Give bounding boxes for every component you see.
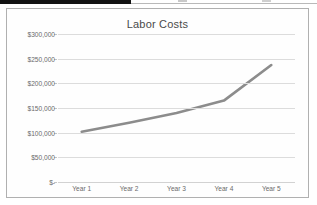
gridline-200000 [58, 83, 295, 84]
y-axis-labels: $-$50,000$100,000$150,000$200,000$250,00… [7, 34, 55, 182]
gridline-250000 [58, 59, 295, 60]
chart-container[interactable]: Labor Costs $-$50,000$100,000$150,000$20… [6, 8, 309, 198]
y-tick-label-250000: $250,000 [9, 55, 55, 62]
y-tick-label-100000: $100,000 [9, 129, 55, 136]
y-tick-label-300000: $300,000 [9, 31, 55, 38]
scan-dark-band-artifact [0, 0, 131, 4]
scan-speck-artifact-right [262, 0, 271, 2]
y-tick-label-50000: $50,000 [9, 154, 55, 161]
x-tick-label-year-5: Year 5 [262, 185, 281, 192]
x-tick-label-year-3: Year 3 [167, 185, 186, 192]
gridline-100000 [58, 133, 295, 134]
y-tick-label-200000: $200,000 [9, 80, 55, 87]
x-axis-labels: Year 1Year 2Year 3Year 4Year 5 [58, 185, 295, 197]
gridline-50000 [58, 157, 295, 158]
gridline-0 [58, 182, 295, 183]
gridline-150000 [58, 108, 295, 109]
x-tick-label-year-1: Year 1 [72, 185, 91, 192]
x-tick-label-year-4: Year 4 [214, 185, 233, 192]
y-tick-label-150000: $150,000 [9, 105, 55, 112]
series-polyline [82, 65, 272, 132]
gridline-300000 [58, 34, 295, 35]
x-tick-label-year-2: Year 2 [120, 185, 139, 192]
scan-speck-artifact-left [178, 0, 187, 2]
scan-gray-rule-artifact [131, 3, 317, 4]
plot-area[interactable] [58, 34, 295, 182]
chart-title: Labor Costs [7, 18, 308, 30]
y-tick-label-0: $- [9, 179, 55, 186]
